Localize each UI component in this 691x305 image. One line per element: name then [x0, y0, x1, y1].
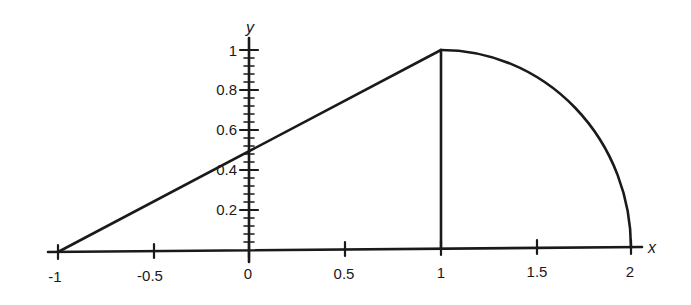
plot-area: [48, 38, 642, 262]
y-tick-labels: 0.2 0.4 0.6 0.8 1: [216, 42, 237, 218]
x-tick-label: 1.5: [527, 263, 548, 280]
y-axis-label: y: [245, 19, 255, 36]
x-tick-label: -1: [48, 268, 61, 285]
x-ticks: [58, 240, 631, 259]
quarter-arc: [441, 50, 631, 248]
x-tick-label: 1: [437, 264, 445, 281]
y-tick-label: 0.8: [216, 81, 237, 98]
y-tick-label: 0.6: [216, 121, 237, 138]
x-tick-labels: -1 -0.5 0 0.5 1 1.5 2: [48, 263, 634, 285]
x-axis-label: x: [647, 239, 657, 256]
x-tick-label: -0.5: [137, 267, 163, 284]
x-tick-label: 0: [244, 265, 252, 282]
y-tick-label: 0.4: [216, 161, 237, 178]
y-tick-label: 1: [229, 42, 237, 59]
y-tick-label: 0.2: [216, 201, 237, 218]
x-tick-label: 2: [626, 263, 634, 280]
x-tick-label: 0.5: [334, 265, 355, 282]
chart: -1 -0.5 0 0.5 1 1.5 2 0.2 0.4 0.6 0.8 1 …: [0, 0, 691, 305]
